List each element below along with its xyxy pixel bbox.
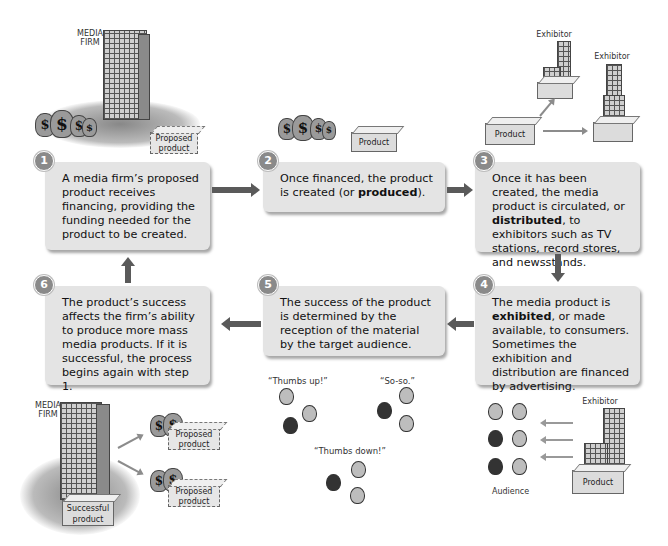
- step-1-badge: 1: [34, 151, 54, 171]
- money-bag-icon: $: [82, 118, 97, 137]
- arrow-to-exhibitor: [543, 130, 583, 132]
- step-6-text: The product’s success affects the firm’s…: [62, 296, 195, 393]
- arrow-head: [251, 183, 260, 197]
- person-face-icon: [351, 461, 366, 478]
- person-face-icon: [512, 458, 527, 475]
- step-5-badge: 5: [258, 275, 278, 295]
- person-face-icon: [377, 402, 392, 419]
- arrow-head: [447, 317, 456, 331]
- building-side: [96, 404, 110, 500]
- arrow-head: [221, 317, 230, 331]
- step-3-badge: 3: [474, 151, 494, 171]
- step-3-box: Once it has been created, the media prod…: [475, 162, 640, 252]
- exhibitor-label: Exhibitor: [592, 52, 632, 61]
- person-face-icon: [283, 417, 298, 434]
- person-face-icon: [488, 458, 503, 475]
- product-box: Product: [351, 132, 397, 152]
- exhibitor-label: Exhibitor: [534, 30, 574, 39]
- person-face-icon: [488, 403, 503, 420]
- arrow-to-exhibitor: [539, 102, 552, 117]
- step-4-badge: 4: [474, 275, 494, 295]
- quote-so-so: “So-so.”: [380, 376, 415, 386]
- person-face-icon: [399, 387, 414, 404]
- successful-product-box: Successful product: [62, 500, 114, 526]
- quote-thumbs-up: “Thumbs up!”: [268, 376, 328, 386]
- quote-thumbs-down: “Thumbs down!”: [314, 446, 386, 456]
- person-face-icon: [326, 474, 341, 491]
- step-4-box: The media product is exhibited, or made …: [475, 286, 640, 385]
- exhibitor-base: [537, 82, 573, 99]
- arrow-2-to-3: [447, 187, 465, 193]
- arrow-1-to-2: [212, 187, 252, 193]
- arrow-head: [551, 273, 565, 282]
- arrow-to-audience: [545, 439, 573, 441]
- exhibitor-label: Exhibitor: [580, 397, 620, 406]
- building-side: [138, 34, 150, 120]
- audience-label: Audience: [488, 487, 533, 496]
- arrow-to-audience: [545, 422, 573, 424]
- step-2-text: Once financed, the product is created (o…: [280, 172, 433, 199]
- proposed-product-box: Proposed product: [168, 428, 220, 450]
- person-face-icon: [399, 415, 414, 432]
- arrow-to-audience: [545, 456, 573, 458]
- arrow-head: [121, 257, 135, 266]
- arrow-5-to-6: [230, 321, 261, 327]
- product-box: Product: [572, 470, 624, 494]
- arrow-head: [464, 183, 473, 197]
- money-bag-icon: $: [322, 121, 336, 140]
- step-6-badge: 6: [34, 275, 54, 295]
- proposed-product-box: Proposed product: [168, 485, 220, 507]
- arrow-3-to-4: [555, 254, 561, 274]
- person-face-icon: [302, 405, 317, 422]
- step-4-text: The media product is exhibited, or made …: [492, 296, 629, 393]
- step-1-box: A media firm’s proposed product receives…: [45, 162, 210, 250]
- person-face-icon: [279, 388, 294, 405]
- step-2-badge: 2: [258, 151, 278, 171]
- arrow-6-to-1: [125, 265, 131, 283]
- step-5-text: The success of the product is determined…: [280, 296, 431, 351]
- step-6-box: The product’s success affects the firm’s…: [45, 286, 210, 385]
- person-face-icon: [512, 430, 527, 447]
- step-2-box: Once financed, the product is created (o…: [263, 162, 445, 212]
- step-5-box: The success of the product is determined…: [263, 286, 445, 356]
- arrow-4-to-5: [455, 321, 474, 327]
- exhibitor-base: [593, 122, 633, 142]
- person-face-icon: [350, 487, 365, 504]
- person-face-icon: [512, 403, 527, 420]
- step-1-text: A media firm’s proposed product receives…: [62, 172, 199, 241]
- arrow-to-new-product: [118, 436, 140, 449]
- product-box: Product: [485, 123, 535, 145]
- person-face-icon: [488, 430, 503, 447]
- proposed-product-box: Proposed product: [150, 132, 198, 154]
